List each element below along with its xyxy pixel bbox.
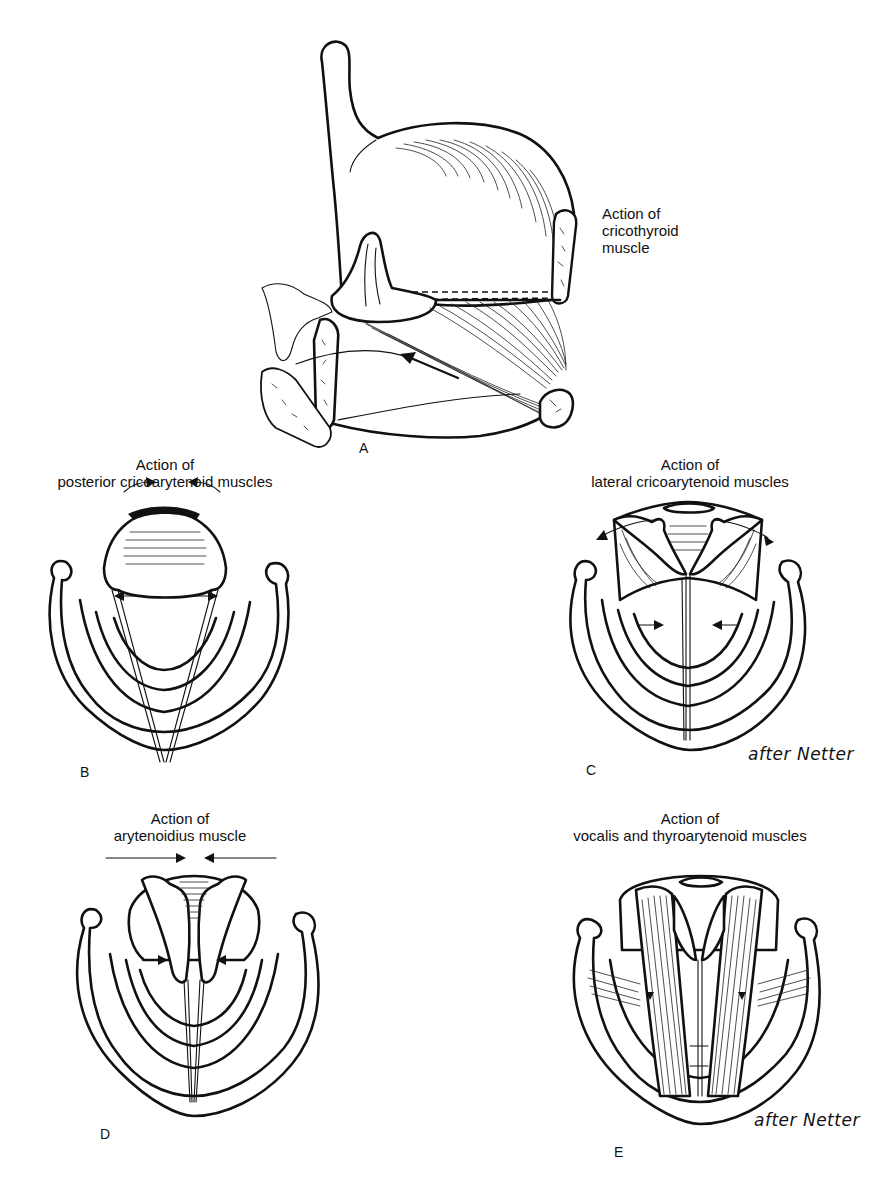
larynx-lateral-illustration [0,0,895,460]
panel-d: Action of arytenoidius muscle D [30,810,350,1190]
panel-a-caption: Action of cricothyroid muscle [602,205,679,256]
panel-a-caption-line1: Action of [602,205,679,222]
posterior-cricoarytenoid-illustration [0,450,330,790]
panel-c: Action of lateral cricoarytenoid muscles… [530,450,895,790]
panel-e-letter: E [614,1144,623,1160]
panel-a-letter: A [359,440,368,456]
panel-a-caption-line2: cricothyroid [602,222,679,239]
lateral-cricoarytenoid-illustration [530,450,895,790]
panel-a-caption-line3: muscle [602,239,679,256]
panel-b: Action of posterior cricoarytenoid muscl… [0,450,330,790]
arytenoidius-illustration [30,810,350,1190]
panel-d-letter: D [100,1126,110,1142]
panel-a: A Action of cricothyroid muscle [0,0,895,460]
panel-e-attribution: after Netter [754,1110,860,1130]
panel-c-letter: C [586,762,596,778]
panel-b-letter: B [80,764,89,780]
vocalis-thyroarytenoid-illustration [540,810,895,1190]
panel-c-attribution: after Netter [748,744,854,764]
panel-e: Action of vocalis and thyroarytenoid mus… [540,810,895,1190]
